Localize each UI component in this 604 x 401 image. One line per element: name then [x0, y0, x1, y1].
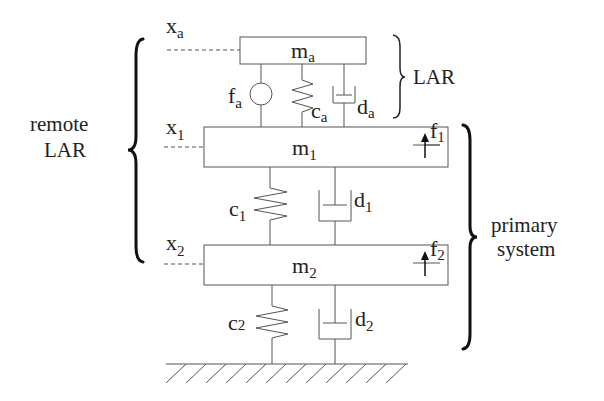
damper-d2-label: d2	[355, 306, 374, 334]
diagram-canvas: ma xa fa ca da LAR m1 x1 f1 c1 d1 m2 x2 …	[0, 0, 604, 401]
displacement-xa-label: xa	[166, 13, 184, 41]
lar-group-label: LAR	[413, 65, 455, 89]
damper-d1-label: d1	[354, 187, 373, 215]
displacement-x2-label: x2	[166, 230, 185, 259]
spring-c2-icon	[256, 285, 288, 364]
remote-lar-label-line2: LAR	[44, 138, 86, 162]
spring-c2-label: c2	[228, 310, 245, 335]
spring-ca-icon	[292, 64, 313, 127]
spring-c1-icon	[254, 167, 287, 245]
spring-ca-label: ca	[311, 98, 328, 125]
ground-icon	[166, 364, 408, 383]
force-f2-label: f2	[430, 236, 445, 263]
mass-m2-block	[204, 245, 448, 285]
actuator-fa-icon	[250, 83, 272, 105]
force-f1-label: f1	[430, 118, 445, 145]
primary-system-label-line1: primary	[491, 213, 558, 237]
displacement-x1-label: x1	[166, 114, 185, 143]
mass-spring-damper-diagram: ma xa fa ca da LAR m1 x1 f1 c1 d1 m2 x2 …	[0, 0, 604, 401]
remote-lar-label-line1: remote	[30, 112, 88, 136]
spring-c1-label: c1	[229, 196, 246, 224]
primary-system-brace-icon	[463, 125, 477, 349]
remote-lar-brace-icon	[128, 39, 143, 262]
mass-m1-block	[204, 127, 448, 167]
lar-brace-icon	[393, 35, 405, 118]
primary-system-label-line2: system	[497, 237, 555, 261]
damper-da-label: da	[357, 94, 375, 121]
actuator-fa-label: fa	[228, 83, 242, 111]
